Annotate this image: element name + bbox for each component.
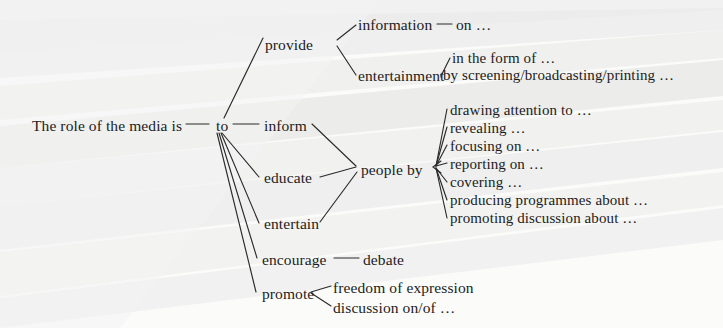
mindmap-canvas: The role of the media is to provide info… xyxy=(0,0,723,328)
node-discussion-on-of: discussion on/of … xyxy=(333,300,455,316)
line-hub-entertain xyxy=(221,133,259,223)
node-in-the-form-of: in the form of … xyxy=(452,51,555,66)
line-peopleby-item-1 xyxy=(436,127,447,166)
node-by-screening: by screening/broadcasting/printing … xyxy=(443,68,674,83)
line-hub-educate xyxy=(222,133,259,177)
node-information: information xyxy=(358,17,432,33)
root-label: The role of the media is xyxy=(32,118,182,134)
node-debate: debate xyxy=(363,252,404,268)
node-freedom-of-expression: freedom of expression xyxy=(333,280,474,296)
hub-label-to: to xyxy=(216,118,228,134)
line-educate-peopleby xyxy=(320,167,356,177)
people-by-item-covering: covering … xyxy=(450,175,522,190)
line-provide-entertainment xyxy=(337,46,356,75)
line-hub-promote xyxy=(217,133,256,292)
line-inform-peopleby xyxy=(312,124,356,166)
line-hub-provide xyxy=(224,38,263,118)
people-by-item-drawing-attention: drawing attention to … xyxy=(450,103,592,118)
people-by-item-revealing: revealing … xyxy=(450,121,526,136)
line-peopleby-item-0 xyxy=(436,109,447,166)
branch-entertain: entertain xyxy=(264,216,319,232)
people-by-item-producing-programmes: producing programmes about … xyxy=(450,193,648,208)
node-entertainment: entertainment xyxy=(358,68,445,84)
branch-inform: inform xyxy=(264,118,307,134)
branch-educate: educate xyxy=(264,170,312,186)
branch-encourage: encourage xyxy=(262,252,327,268)
node-information-tail: on … xyxy=(456,17,491,33)
branch-provide: provide xyxy=(265,37,313,53)
line-provide-information xyxy=(337,25,356,40)
people-by-item-reporting-on: reporting on … xyxy=(450,157,544,172)
people-by-item-promoting-discussion: promoting discussion about … xyxy=(450,211,637,226)
node-people-by: people by xyxy=(361,162,423,178)
line-entertain-peopleby xyxy=(320,172,357,222)
branch-promote: promote xyxy=(262,286,314,302)
people-by-item-focusing-on: focusing on … xyxy=(450,139,540,154)
